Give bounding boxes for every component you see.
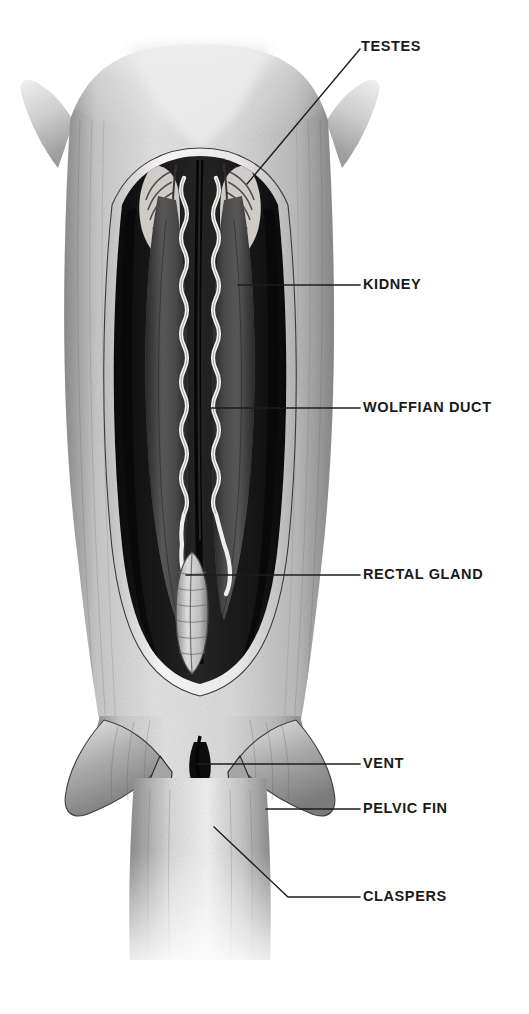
label-claspers: CLASPERS xyxy=(363,888,447,904)
caudal-peduncle xyxy=(120,778,280,980)
illustration-canvas: TESTES KIDNEY WOLFFIAN DUCT RECTAL GLAND… xyxy=(0,0,529,1014)
anatomy-figure: TESTES KIDNEY WOLFFIAN DUCT RECTAL GLAND… xyxy=(0,0,529,1014)
label-testes: TESTES xyxy=(361,38,421,54)
labels: TESTES KIDNEY WOLFFIAN DUCT RECTAL GLAND… xyxy=(361,38,492,904)
label-wolffian-duct: WOLFFIAN DUCT xyxy=(363,399,492,415)
label-vent: VENT xyxy=(363,755,404,771)
label-rectal-gland: RECTAL GLAND xyxy=(363,566,483,582)
label-pelvic-fin: PELVIC FIN xyxy=(363,800,448,816)
label-kidney: KIDNEY xyxy=(363,276,421,292)
